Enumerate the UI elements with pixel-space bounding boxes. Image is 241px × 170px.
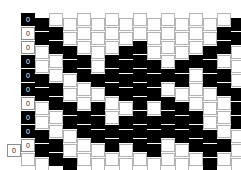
weave-cell-r10-c8[interactable]: [133, 153, 147, 166]
weave-cell-r9-c8[interactable]: [133, 139, 147, 152]
weave-cell-r9-c12[interactable]: [189, 139, 203, 152]
weave-cell-r6-c13[interactable]: [203, 102, 217, 115]
weave-cell-r6-c12[interactable]: [189, 97, 203, 110]
weave-cell-r7-c15[interactable]: [231, 116, 241, 129]
weave-cell-r5-c2[interactable]: [49, 83, 63, 96]
weave-cell-r0-c11[interactable]: [175, 18, 189, 31]
weave-cell-r0-c8[interactable]: [133, 13, 147, 26]
weave-cell-r9-c3[interactable]: [63, 144, 77, 157]
weave-cell-r1-c7[interactable]: [119, 32, 133, 45]
weave-cell-r8-c9[interactable]: [147, 130, 161, 143]
weave-cell-r1-c1[interactable]: [35, 32, 49, 45]
weave-cell-r9-c15[interactable]: [231, 144, 241, 157]
weave-cell-r1-c12[interactable]: [189, 27, 203, 40]
weave-cell-r10-c0[interactable]: [21, 153, 35, 166]
weave-cell-r2-c6[interactable]: [105, 41, 119, 54]
weave-cell-r0-c14[interactable]: [217, 13, 231, 26]
weave-cell-r7-c12[interactable]: [189, 111, 203, 124]
weave-cell-r3-c12[interactable]: [189, 55, 203, 68]
weave-cell-r7-c4[interactable]: [77, 111, 91, 124]
weave-cell-r2-c13[interactable]: [203, 46, 217, 59]
weave-cell-r2-c14[interactable]: [217, 41, 231, 54]
weave-cell-r4-c14[interactable]: [217, 69, 231, 82]
weave-cell-r10-c13[interactable]: [203, 158, 217, 170]
weave-cell-r4-c12[interactable]: [189, 69, 203, 82]
weave-cell-r3-c1[interactable]: [35, 60, 49, 73]
weave-cell-r5-c5[interactable]: [91, 88, 105, 101]
weave-cell-r5-c13[interactable]: [203, 88, 217, 101]
weave-cell-r0-c4[interactable]: [77, 13, 91, 26]
weave-cell-r1-c9[interactable]: [147, 32, 161, 45]
weave-label-cell-row-0[interactable]: 0: [21, 13, 35, 26]
weave-cell-r7-c9[interactable]: [147, 116, 161, 129]
weave-cell-r10-c11[interactable]: [175, 158, 189, 170]
weave-cell-r1-c13[interactable]: [203, 32, 217, 45]
weave-cell-r6-c8[interactable]: [133, 97, 147, 110]
weave-label-cell-row-1[interactable]: 0: [21, 27, 35, 40]
weave-cell-r4-c7[interactable]: [119, 74, 133, 87]
weave-cell-r9-c1[interactable]: [35, 144, 49, 157]
weave-label-cell-row-5[interactable]: 0: [21, 83, 35, 96]
weave-cell-r5-c6[interactable]: [105, 83, 119, 96]
weave-cell-r3-c13[interactable]: [203, 60, 217, 73]
weave-cell-r5-c3[interactable]: [63, 88, 77, 101]
weave-cell-r0-c1[interactable]: [35, 18, 49, 31]
weave-label-cell-row-6[interactable]: 0: [21, 97, 35, 110]
weave-cell-r5-c14[interactable]: [217, 83, 231, 96]
weave-cell-r9-c10[interactable]: [161, 139, 175, 152]
weave-cell-r8-c11[interactable]: [175, 130, 189, 143]
weave-cell-r3-c2[interactable]: [49, 55, 63, 68]
weave-cell-r6-c3[interactable]: [63, 102, 77, 115]
weave-cell-r2-c12[interactable]: [189, 41, 203, 54]
weave-cell-r10-c9[interactable]: [147, 158, 161, 170]
weave-cell-r10-c15[interactable]: [231, 158, 241, 170]
weave-cell-r7-c1[interactable]: [35, 116, 49, 129]
weave-cell-r4-c8[interactable]: [133, 69, 147, 82]
weave-cell-r0-c2[interactable]: [49, 13, 63, 26]
weave-cell-r4-c10[interactable]: [161, 69, 175, 82]
weave-cell-r10-c10[interactable]: [161, 153, 175, 166]
weave-cell-r10-c2[interactable]: [49, 153, 63, 166]
weave-label-cell-row-3[interactable]: 0: [21, 55, 35, 68]
weave-cell-r7-c2[interactable]: [49, 111, 63, 124]
weave-cell-r2-c3[interactable]: [63, 46, 77, 59]
weave-cell-r2-c9[interactable]: [147, 46, 161, 59]
weave-cell-r1-c11[interactable]: [175, 32, 189, 45]
weave-cell-r8-c15[interactable]: [231, 130, 241, 143]
weave-cell-r3-c5[interactable]: [91, 60, 105, 73]
weave-cell-r9-c14[interactable]: [217, 139, 231, 152]
weave-cell-r0-c9[interactable]: [147, 18, 161, 31]
weave-cell-r7-c7[interactable]: [119, 116, 133, 129]
weave-cell-r3-c10[interactable]: [161, 55, 175, 68]
weave-cell-r10-c1[interactable]: [35, 158, 49, 170]
weave-cell-r7-c10[interactable]: [161, 111, 175, 124]
weave-label-cell-row-9[interactable]: 0: [21, 139, 35, 152]
weave-cell-r6-c2[interactable]: [49, 97, 63, 110]
weave-cell-r8-c10[interactable]: [161, 125, 175, 138]
weave-cell-r6-c15[interactable]: [231, 102, 241, 115]
weave-cell-r0-c12[interactable]: [189, 13, 203, 26]
weave-cell-r8-c2[interactable]: [49, 125, 63, 138]
weave-cell-r8-c7[interactable]: [119, 130, 133, 143]
weave-cell-r1-c8[interactable]: [133, 27, 147, 40]
weave-cell-r4-c9[interactable]: [147, 74, 161, 87]
weave-cell-r4-c4[interactable]: [77, 69, 91, 82]
weave-cell-r8-c6[interactable]: [105, 125, 119, 138]
weave-cell-r8-c14[interactable]: [217, 125, 231, 138]
weave-cell-r4-c1[interactable]: [35, 74, 49, 87]
weave-cell-r10-c4[interactable]: [77, 153, 91, 166]
weave-label-cell-row-2[interactable]: 0: [21, 41, 35, 54]
weave-cell-r9-c11[interactable]: [175, 144, 189, 157]
weave-cell-r2-c7[interactable]: [119, 46, 133, 59]
weave-extra-label-cell[interactable]: 0: [7, 144, 21, 157]
weave-cell-r5-c11[interactable]: [175, 88, 189, 101]
weave-cell-r6-c1[interactable]: [35, 102, 49, 115]
weave-cell-r2-c2[interactable]: [49, 41, 63, 54]
weave-cell-r5-c15[interactable]: [231, 88, 241, 101]
weave-cell-r5-c1[interactable]: [35, 88, 49, 101]
weave-cell-r1-c14[interactable]: [217, 27, 231, 40]
weave-cell-r4-c2[interactable]: [49, 69, 63, 82]
weave-cell-r3-c6[interactable]: [105, 55, 119, 68]
weave-cell-r7-c3[interactable]: [63, 116, 77, 129]
weave-cell-r7-c11[interactable]: [175, 116, 189, 129]
